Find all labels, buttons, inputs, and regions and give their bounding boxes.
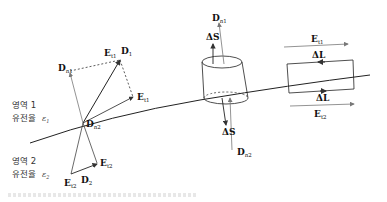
label-pillbox-Dn2: Dn2: [237, 147, 252, 158]
label-D1: D1: [121, 46, 132, 57]
label-pillbox-Dn1: Dn1: [212, 13, 227, 24]
label-loop-Et2: Et2: [314, 109, 327, 120]
label-Et1: Et1: [104, 48, 117, 59]
region2-vectors: [71, 123, 97, 174]
label-D2: D2: [81, 175, 92, 186]
label-pillbox-dS-bottom: ΔS: [222, 127, 235, 137]
diagram-canvas: Dn1 Et1 D1 Et1 Dn2 Et2 Et2 D2 영역 1 유전율 ε…: [0, 0, 387, 202]
label-loop-Et1: Et1: [311, 34, 324, 45]
label-Dn1: Dn1: [58, 63, 73, 74]
label-pillbox-dS-top: ΔS: [206, 32, 219, 42]
region2-medium: 유전율: [12, 169, 36, 179]
region1-vectors: [70, 60, 133, 123]
label-Et2-bottom: Et2: [64, 178, 77, 189]
region1-epsilon: ε1: [42, 114, 49, 124]
label-Et2: Et2: [100, 158, 113, 169]
region1-label: 영역 1: [12, 100, 36, 110]
region2-label: 영역 2: [12, 156, 36, 166]
label-loop-dL-bottom: ΔL: [316, 93, 330, 103]
label-loop-dL-top: ΔL: [312, 50, 326, 60]
region2-epsilon: ε2: [42, 170, 49, 180]
label-Et1-tangent: Et1: [137, 92, 150, 103]
label-Dn2: Dn2: [86, 119, 101, 130]
caption-faint: [8, 193, 198, 197]
region1-medium: 유전율: [12, 113, 36, 123]
